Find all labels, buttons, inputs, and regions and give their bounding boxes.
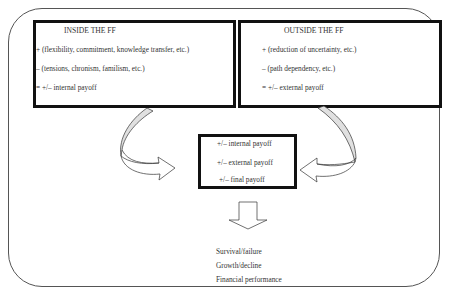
- down-arrow-icon: [229, 202, 267, 229]
- right-curved-arrow-icon: [300, 106, 356, 182]
- arrows-layer: [0, 0, 450, 296]
- left-curved-arrow-icon: [121, 108, 175, 180]
